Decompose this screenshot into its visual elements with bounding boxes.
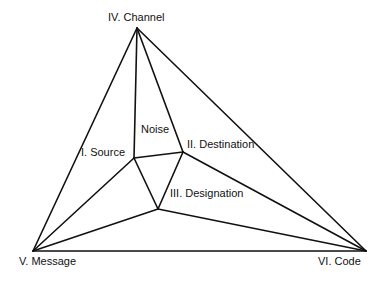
edge-destination-designation	[158, 152, 183, 209]
node-label-channel: IV. Channel	[108, 12, 164, 23]
edge-source-destination	[134, 152, 183, 158]
node-label-designation: III. Designation	[170, 188, 243, 199]
node-label-destination: II. Destination	[187, 139, 254, 150]
node-label-source: I. Source	[81, 147, 125, 158]
region-label-noise: Noise	[141, 124, 169, 135]
edge-code-destination	[183, 152, 366, 251]
edge-channel-message	[33, 28, 137, 251]
node-label-code: VI. Code	[318, 256, 361, 267]
edge-code-designation	[158, 209, 366, 251]
edge-message-source	[33, 158, 134, 251]
edge-channel-source	[134, 28, 137, 158]
node-label-message: V. Message	[19, 256, 76, 267]
edge-source-designation	[134, 158, 158, 209]
edge-message-designation	[33, 209, 158, 251]
